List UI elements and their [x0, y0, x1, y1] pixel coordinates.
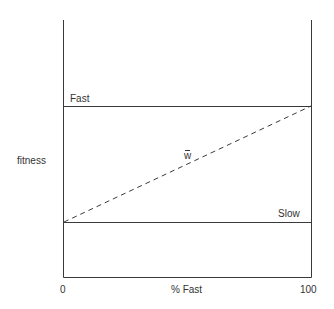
chart-plot-area — [0, 0, 334, 309]
fast-line-label: Fast — [70, 93, 89, 105]
y-axis-label: fitness — [17, 155, 46, 167]
mean-fitness-label: w — [184, 150, 191, 162]
x-axis-label: % Fast — [171, 284, 202, 296]
w-bar-symbol: w — [184, 150, 191, 162]
x-tick-max: 100 — [300, 284, 317, 296]
x-tick-min: 0 — [60, 284, 66, 296]
slow-line-label: Slow — [278, 208, 300, 220]
mean-fitness-dashed-line — [64, 106, 311, 222]
